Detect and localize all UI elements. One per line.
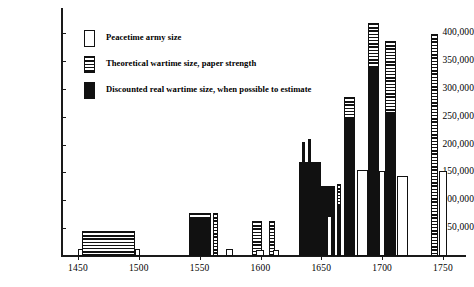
- y-axis-tick: [62, 145, 66, 146]
- y-axis-tick-label: 200,000: [416, 140, 474, 150]
- y-axis-tick-label: 300,000: [416, 84, 474, 94]
- x-axis-tick-label: 1450: [58, 263, 98, 273]
- x-axis-tick-label: 1550: [180, 263, 220, 273]
- bar-peace: [327, 216, 332, 256]
- legend-label-paper-strength: Theoretical wartime size, paper strength: [106, 58, 256, 68]
- bar-peace: [256, 250, 265, 256]
- bar-real: [337, 205, 341, 256]
- y-axis-tick-label: 250,000: [416, 112, 474, 122]
- legend-label-peacetime: Peacetime army size: [106, 32, 181, 42]
- y-axis-tick: [62, 228, 66, 229]
- bar-real: [302, 142, 305, 256]
- bar-paper: [431, 34, 438, 256]
- bar-real: [308, 139, 311, 256]
- bar-real: [385, 112, 396, 256]
- legend-swatch-paper-strength-icon: [84, 56, 95, 73]
- bar-peace: [439, 171, 446, 256]
- x-axis-tick-label: 1650: [301, 263, 341, 273]
- bar-real: [368, 66, 379, 256]
- bar-paper: [213, 213, 218, 256]
- bar-peace: [273, 250, 279, 256]
- y-axis-tick-label: 350,000: [416, 56, 474, 66]
- y-axis-tick: [62, 89, 66, 90]
- y-axis-line: [61, 8, 63, 256]
- x-axis-tick-label: 1750: [423, 263, 463, 273]
- bar-peace: [226, 249, 232, 256]
- bar-paper: [82, 231, 136, 256]
- legend-label-real-wartime: Discounted real wartime size, when possi…: [106, 84, 311, 94]
- y-axis-tick: [62, 61, 66, 62]
- y-axis-tick: [62, 117, 66, 118]
- x-axis-tick-label: 1500: [119, 263, 159, 273]
- y-axis-tick: [62, 33, 66, 34]
- x-axis-tick-label: 1600: [241, 263, 281, 273]
- legend-swatch-real-wartime-icon: [84, 82, 95, 99]
- legend-swatch-peacetime-icon: [84, 30, 95, 47]
- bar-real: [189, 217, 211, 256]
- y-axis-tick: [62, 200, 66, 201]
- bar-peace: [78, 249, 83, 256]
- x-axis-tick-label: 1700: [362, 263, 402, 273]
- bar-peace: [397, 176, 408, 256]
- y-axis-tick: [62, 172, 66, 173]
- army-size-bar-chart: 400,000350,000300,000250,000200,000150,0…: [0, 0, 474, 287]
- bar-peace: [379, 171, 385, 256]
- bar-peace: [357, 170, 368, 256]
- y-axis-tick-label: 400,000: [416, 28, 474, 38]
- bar-real: [344, 118, 355, 256]
- bar-peace: [135, 249, 140, 256]
